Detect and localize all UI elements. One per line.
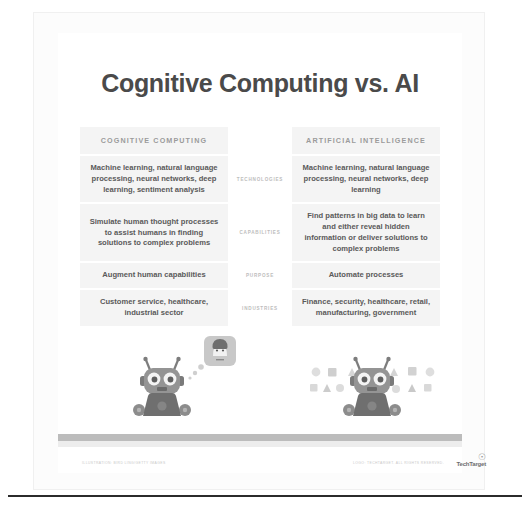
circle-icon	[426, 368, 435, 377]
cell-text: Automate processes	[329, 270, 404, 281]
row-label-capabilities: CAPABILITIES	[228, 204, 292, 261]
table-row: Simulate human thought processes to assi…	[80, 204, 440, 261]
table-row: Machine learning, natural language proce…	[80, 156, 440, 202]
left-robot-svg	[130, 334, 250, 430]
square-icon	[408, 367, 417, 376]
robot-with-thought-bubble	[130, 334, 250, 434]
infographic-frame: Cognitive Computing vs. AI COGNITIVE COM…	[33, 12, 485, 490]
row-label-purpose: PURPOSE	[228, 263, 292, 288]
robot-mouth	[367, 387, 377, 391]
thought-dot-icon	[193, 371, 197, 375]
bottom-divider	[8, 495, 522, 497]
square-icon	[424, 384, 432, 392]
robot-pupil	[362, 377, 368, 383]
techtarget-logo: ☉ TechTarget	[457, 453, 486, 467]
column-header-cognitive-computing: COGNITIVE COMPUTING	[80, 127, 228, 154]
antenna-left	[356, 360, 360, 370]
cell-ai-industries: Finance, security, healthcare, retail, m…	[292, 290, 440, 326]
cell-text: Machine learning, natural language proce…	[301, 163, 431, 195]
cell-ai-capabilities: Find patterns in big data to learn and e…	[292, 204, 440, 261]
infographic-card: Cognitive Computing vs. AI COGNITIVE COM…	[58, 33, 462, 473]
cell-cognitive-industries: Customer service, healthcare, industrial…	[80, 290, 228, 326]
triangle-icon	[408, 384, 416, 392]
circle-icon	[336, 384, 344, 392]
credit-rights: LOGO: TECHTARGET. ALL RIGHTS RESERVED.	[353, 461, 444, 465]
cell-text: Augment human capabilities	[102, 270, 205, 281]
antenna-right	[174, 360, 178, 370]
cell-text: Simulate human thought processes to assi…	[89, 217, 219, 249]
cell-cognitive-purpose: Augment human capabilities	[80, 263, 228, 288]
cell-text: Customer service, healthcare, industrial…	[89, 297, 219, 319]
circle-icon	[312, 368, 321, 377]
robot-joint	[393, 408, 397, 412]
credit-illustration: ILLUSTRATION: BIRD LING/GETTY IMAGES	[82, 461, 166, 465]
cell-cognitive-capabilities: Simulate human thought processes to assi…	[80, 204, 228, 261]
cell-text: Find patterns in big data to learn and e…	[301, 211, 431, 254]
ground-band	[58, 434, 462, 441]
robot-with-data-shapes	[304, 334, 444, 434]
cell-text: Machine learning, natural language proce…	[89, 163, 219, 195]
antenna-bulb	[386, 357, 390, 361]
table-header-row: COGNITIVE COMPUTING ARTIFICIAL INTELLIGE…	[80, 127, 440, 154]
right-robot-svg	[304, 334, 444, 430]
square-icon	[328, 368, 337, 377]
square-icon	[310, 384, 318, 392]
footer: ILLUSTRATION: BIRD LING/GETTY IMAGES LOG…	[82, 451, 486, 465]
page-title: Cognitive Computing vs. AI	[58, 69, 462, 98]
row-label-technologies: TECHNOLOGIES	[228, 156, 292, 202]
comparison-table: COGNITIVE COMPUTING ARTIFICIAL INTELLIGE…	[80, 127, 440, 326]
cell-cognitive-technologies: Machine learning, natural language proce…	[80, 156, 228, 202]
table-row: Augment human capabilities PURPOSE Autom…	[80, 263, 440, 288]
antenna-bulb	[143, 357, 147, 361]
thought-dot-icon	[198, 364, 204, 370]
circle-icon	[392, 385, 400, 393]
robot-chest-button	[157, 401, 166, 410]
cell-ai-purpose: Automate processes	[292, 263, 440, 288]
antenna-bulb	[176, 357, 180, 361]
antenna-bulb	[353, 357, 357, 361]
robot-pupil	[378, 377, 384, 383]
antenna-right	[384, 360, 388, 370]
triangle-icon	[323, 384, 331, 392]
logo-text: TechTarget	[457, 461, 486, 467]
column-header-middle	[228, 127, 292, 145]
cell-ai-technologies: Machine learning, natural language proce…	[292, 156, 440, 202]
page-root: Cognitive Computing vs. AI COGNITIVE COM…	[0, 0, 530, 509]
triangle-icon	[390, 368, 398, 376]
cell-text: Finance, security, healthcare, retail, m…	[301, 297, 431, 319]
robot-pupil	[168, 377, 174, 383]
robot-joint	[137, 408, 141, 412]
robot-chest-button	[367, 401, 376, 410]
column-header-artificial-intelligence: ARTIFICIAL INTELLIGENCE	[292, 127, 440, 154]
ground-shadow	[58, 441, 462, 447]
robot-joint	[183, 408, 187, 412]
table-row: Customer service, healthcare, industrial…	[80, 290, 440, 326]
robot-mouth	[157, 387, 167, 391]
logo-mark-icon: ☉	[457, 453, 486, 461]
antenna-left	[146, 360, 150, 370]
row-label-industries: INDUSTRIES	[228, 290, 292, 326]
robot-pupil	[152, 377, 158, 383]
robot-illustration	[58, 353, 462, 453]
robot-joint	[347, 408, 351, 412]
thought-dot-icon	[188, 376, 191, 379]
